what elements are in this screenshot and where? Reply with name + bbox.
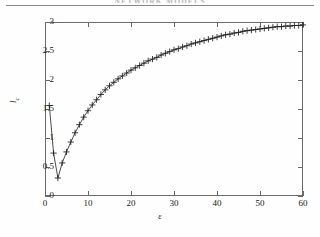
plus-marker-icon <box>149 56 155 62</box>
plus-marker-icon <box>227 31 233 37</box>
y-tick-mark-right <box>298 196 303 197</box>
plus-marker-icon <box>223 32 229 38</box>
figure-page: NETWORK MODELS 00.511.522.53010203040506… <box>0 0 320 237</box>
plus-marker-icon <box>51 150 57 156</box>
y-axis-title-subscript: c <box>13 98 20 101</box>
plus-marker-icon <box>192 40 198 46</box>
series-markers <box>46 22 306 181</box>
plus-marker-icon <box>85 108 91 114</box>
page-running-head: NETWORK MODELS <box>0 0 320 3</box>
chart-figure: 00.511.522.530102030405060 lc ε <box>0 8 320 237</box>
y-axis-title: lc <box>8 98 20 103</box>
plus-marker-icon <box>270 24 276 30</box>
plus-marker-icon <box>210 35 216 41</box>
plot-area <box>45 22 303 196</box>
plus-marker-icon <box>257 26 263 32</box>
plus-marker-icon <box>167 48 173 54</box>
plus-marker-icon <box>55 175 61 181</box>
x-tick-mark <box>303 191 304 196</box>
plus-marker-icon <box>124 70 130 76</box>
plus-marker-icon <box>46 102 52 108</box>
data-series-curve <box>45 22 303 196</box>
plus-marker-icon <box>72 130 78 136</box>
plus-marker-icon <box>63 149 69 155</box>
plus-marker-icon <box>300 22 306 28</box>
plus-marker-icon <box>180 44 186 50</box>
plus-marker-icon <box>231 30 237 36</box>
x-tick-label: 20 <box>116 199 146 208</box>
plus-marker-icon <box>162 50 168 56</box>
plus-marker-icon <box>175 46 181 52</box>
plus-marker-icon <box>240 28 246 34</box>
plus-marker-icon <box>197 39 203 45</box>
x-axis-title: ε <box>0 211 320 221</box>
plus-marker-icon <box>59 160 65 166</box>
y-axis-title-text: l <box>8 100 18 103</box>
plus-marker-icon <box>171 47 177 53</box>
plus-marker-icon <box>81 114 87 120</box>
plus-marker-icon <box>201 37 207 43</box>
series-line <box>49 25 303 178</box>
plus-marker-icon <box>68 139 74 145</box>
plus-marker-icon <box>296 22 302 28</box>
plus-marker-icon <box>266 25 272 31</box>
x-tick-label: 30 <box>159 199 189 208</box>
plus-marker-icon <box>188 41 194 47</box>
x-tick-label: 60 <box>288 199 318 208</box>
plus-marker-icon <box>214 34 220 40</box>
plus-marker-icon <box>218 33 224 39</box>
plus-marker-icon <box>244 28 250 34</box>
plus-marker-icon <box>235 29 241 35</box>
page-horizontal-rule <box>6 5 314 6</box>
plus-marker-icon <box>205 36 211 42</box>
plus-marker-icon <box>184 43 190 49</box>
plus-marker-icon <box>261 25 267 31</box>
x-tick-label: 10 <box>73 199 103 208</box>
plus-marker-icon <box>253 26 259 32</box>
plus-marker-icon <box>119 73 125 79</box>
x-tick-label: 0 <box>30 199 60 208</box>
plus-marker-icon <box>278 24 284 30</box>
x-tick-label: 50 <box>245 199 275 208</box>
plus-marker-icon <box>287 23 293 29</box>
plus-marker-icon <box>248 27 254 33</box>
plus-marker-icon <box>76 122 82 128</box>
x-tick-label: 40 <box>202 199 232 208</box>
